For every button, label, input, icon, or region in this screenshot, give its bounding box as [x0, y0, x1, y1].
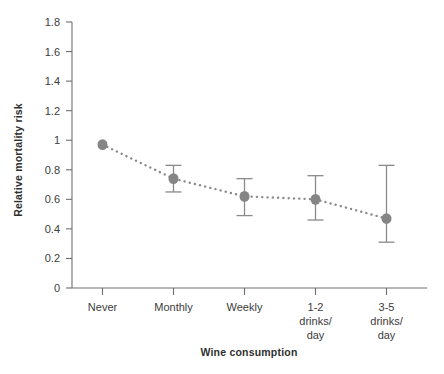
y-tick-label: 1.8	[45, 16, 60, 28]
x-tick-label: Weekly	[227, 301, 263, 313]
y-tick-label: 1	[54, 134, 60, 146]
mortality-risk-scatter-chart: 00.20.40.60.811.21.41.61.8 NeverMonthlyW…	[0, 0, 444, 374]
x-tick-label: 1-2drinks/day	[299, 301, 332, 341]
y-tick-label: 0	[54, 282, 60, 294]
data-point-marker	[382, 213, 392, 224]
x-axis: NeverMonthlyWeekly1-2drinks/day3-5drinks…	[72, 288, 427, 341]
data-point-marker	[169, 173, 179, 184]
x-axis-ticks: NeverMonthlyWeekly1-2drinks/day3-5drinks…	[88, 288, 404, 341]
data-point-marker	[311, 194, 321, 205]
x-axis-title: Wine consumption	[200, 346, 297, 358]
y-tick-label: 1.6	[45, 46, 60, 58]
error-bars	[166, 165, 395, 242]
y-tick-label: 0.8	[45, 164, 60, 176]
y-tick-label: 0.6	[45, 193, 60, 205]
data-point-marker	[240, 191, 250, 202]
y-tick-label: 1.2	[45, 105, 60, 117]
chart-container: 00.20.40.60.811.21.41.61.8 NeverMonthlyW…	[0, 0, 444, 374]
x-tick-label: 3-5drinks/day	[370, 301, 403, 341]
x-tick-label: Never	[88, 301, 118, 313]
y-tick-label: 1.4	[45, 75, 60, 87]
y-axis-ticks: 00.20.40.60.811.21.41.61.8	[45, 16, 72, 294]
data-point-marker	[98, 139, 108, 150]
y-axis-title: Relative mortality risk	[12, 103, 24, 217]
data-series	[98, 139, 395, 242]
y-axis: 00.20.40.60.811.21.41.61.8	[45, 16, 72, 294]
y-tick-label: 0.2	[45, 252, 60, 264]
y-tick-label: 0.4	[45, 223, 60, 235]
x-tick-label: Monthly	[154, 301, 193, 313]
